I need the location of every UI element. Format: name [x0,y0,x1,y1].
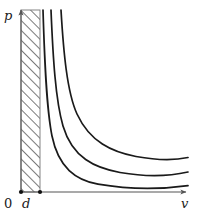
d-tick-label: d [22,197,30,210]
isotherm-curve-high [61,10,188,160]
isotherm-curve-low [43,10,188,188]
pv-diagram-figure: p v 0 d [0,0,206,218]
isotherm-curve-mid [51,10,188,176]
origin-marker [19,190,23,194]
excluded-volume-hatch [21,10,40,192]
origin-tick-label: 0 [4,197,12,210]
pv-diagram-canvas [0,0,206,218]
y-axis-label: p [4,9,12,22]
x-axis-label: v [181,197,188,210]
d-marker [38,190,42,194]
